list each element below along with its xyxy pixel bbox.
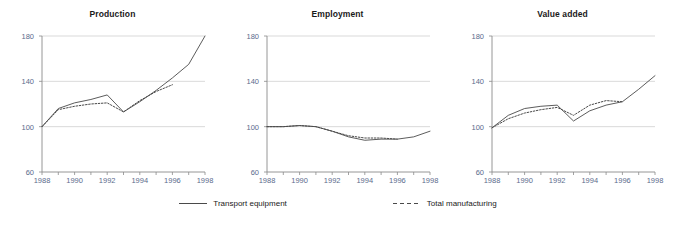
legend-label: Total manufacturing xyxy=(427,199,497,208)
plot-area xyxy=(42,36,205,172)
y-tick-label: 140 xyxy=(246,77,259,86)
panel-title: Employment xyxy=(225,9,450,19)
panel-title: Value added xyxy=(450,9,675,19)
x-tick-label: 1992 xyxy=(99,176,116,185)
plot-area xyxy=(267,36,430,172)
chart-panels: Production 60100140180 19881990199219941… xyxy=(0,0,675,196)
y-axis-tick-labels: 60100140180 xyxy=(0,36,38,172)
legend-item-total-manufacturing: Total manufacturing xyxy=(392,199,497,208)
chart-panel-production: Production 60100140180 19881990199219941… xyxy=(0,0,225,196)
plot-svg xyxy=(492,36,655,172)
y-tick-label: 100 xyxy=(246,122,259,131)
plot-area xyxy=(492,36,655,172)
x-tick-label: 1998 xyxy=(422,176,439,185)
chart-figure: Production 60100140180 19881990199219941… xyxy=(0,0,675,234)
x-tick-label: 1988 xyxy=(484,176,501,185)
y-tick-label: 100 xyxy=(21,122,34,131)
x-axis-tick-labels: 198819901992199419961998 xyxy=(492,176,655,190)
x-tick-label: 1996 xyxy=(164,176,181,185)
x-tick-label: 1990 xyxy=(516,176,533,185)
x-tick-label: 1990 xyxy=(66,176,83,185)
plot-svg xyxy=(42,36,205,172)
y-tick-label: 180 xyxy=(246,32,259,41)
series-line-1 xyxy=(42,85,172,127)
x-tick-label: 1988 xyxy=(34,176,51,185)
x-tick-label: 1998 xyxy=(647,176,664,185)
x-tick-label: 1994 xyxy=(131,176,148,185)
chart-panel-employment: Employment 60100140180 19881990199219941… xyxy=(225,0,450,196)
series-line-0 xyxy=(492,76,655,128)
x-tick-label: 1992 xyxy=(549,176,566,185)
series-line-0 xyxy=(267,126,430,141)
panel-title: Production xyxy=(0,9,225,19)
legend-label: Transport equipment xyxy=(213,199,287,208)
y-tick-label: 180 xyxy=(471,32,484,41)
x-axis-tick-labels: 198819901992199419961998 xyxy=(42,176,205,190)
x-tick-label: 1992 xyxy=(324,176,341,185)
series-line-1 xyxy=(267,126,397,140)
x-tick-label: 1988 xyxy=(259,176,276,185)
chart-legend: Transport equipment Total manufacturing xyxy=(0,199,675,229)
legend-solid-line-icon xyxy=(178,199,208,208)
x-tick-label: 1994 xyxy=(356,176,373,185)
y-tick-label: 140 xyxy=(471,77,484,86)
x-tick-label: 1996 xyxy=(389,176,406,185)
y-axis-tick-labels: 60100140180 xyxy=(225,36,263,172)
legend-item-transport-equipment: Transport equipment xyxy=(178,199,287,208)
plot-svg xyxy=(267,36,430,172)
chart-panel-value-added: Value added 60100140180 1988199019921994… xyxy=(450,0,675,196)
y-tick-label: 100 xyxy=(471,122,484,131)
x-axis-tick-labels: 198819901992199419961998 xyxy=(267,176,430,190)
y-tick-label: 180 xyxy=(21,32,34,41)
x-tick-label: 1998 xyxy=(197,176,214,185)
x-tick-label: 1990 xyxy=(291,176,308,185)
y-axis-tick-labels: 60100140180 xyxy=(450,36,488,172)
x-tick-label: 1994 xyxy=(581,176,598,185)
y-tick-label: 140 xyxy=(21,77,34,86)
x-tick-label: 1996 xyxy=(614,176,631,185)
legend-dashed-line-icon xyxy=(392,199,422,208)
